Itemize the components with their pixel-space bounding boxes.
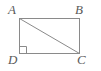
right-angle-marker-d bbox=[20, 47, 27, 54]
vertex-label-a: A bbox=[8, 3, 16, 16]
vertex-label-c: C bbox=[77, 53, 86, 66]
vertex-label-d: D bbox=[8, 53, 17, 66]
vertex-label-b: B bbox=[75, 3, 83, 16]
geometry-figure: A B C D bbox=[0, 0, 101, 71]
diagonal-ac-line bbox=[20, 19, 80, 54]
